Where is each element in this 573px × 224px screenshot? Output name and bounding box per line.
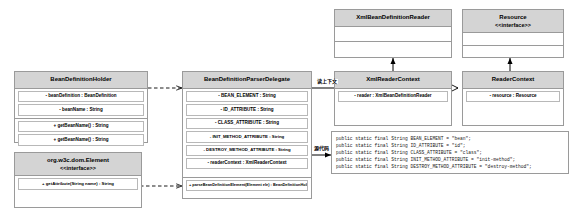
- class-name: ReaderContext: [492, 76, 535, 84]
- class-name: XmlReaderContext: [366, 76, 420, 84]
- edge-label-context: 读上下文: [316, 79, 338, 84]
- attributes-compartment: - resource : Resource: [463, 89, 563, 126]
- class-box-reader-context[interactable]: ReaderContext - resource : Resource: [462, 71, 564, 126]
- attribute-row: - readerContext : XmlReaderContext: [186, 158, 308, 170]
- attributes-compartment: - reader : XmlBeanDefinitionReader: [335, 89, 451, 126]
- class-title-parser-delegate: BeanDefinitionParserDelegate: [183, 72, 311, 89]
- class-title-resource: Resource <<interface>>: [463, 10, 563, 33]
- class-name: Resource: [499, 14, 526, 22]
- class-box-xml-reader-context[interactable]: XmlReaderContext - reader : XmlBeanDefin…: [334, 71, 452, 126]
- methods-compartment: [335, 41, 451, 57]
- class-name: org.w3c.dom.Element: [47, 157, 109, 165]
- class-title-w3c-element: org.w3c.dom.Element <<interface>>: [15, 153, 141, 176]
- methods-compartment: + getBeanName() : String + getBeanName()…: [15, 118, 147, 148]
- class-name: BeanDefinitionParserDelegate: [204, 76, 290, 84]
- class-box-bean-definition-parser-delegate[interactable]: BeanDefinitionParserDelegate - BEAN_ELEM…: [182, 71, 312, 199]
- attribute-row: - DESTROY_METHOD_ATTRIBUTE : String: [186, 145, 308, 156]
- class-box-w3c-element[interactable]: org.w3c.dom.Element <<interface>> + getA…: [14, 152, 142, 208]
- attribute-row: - INIT_METHOD_ATTRIBUTE : String: [186, 131, 308, 142]
- class-name: BeanDefinitionHolder: [50, 76, 111, 84]
- attribute-row: - beanDefinition : BeanDefinition: [18, 91, 144, 103]
- attribute-row: - BEAN_ELEMENT : String: [186, 91, 308, 103]
- code-snippet-block: public static final String BEAN_ELEMENT …: [331, 131, 569, 174]
- edge-label-source: 源代码: [313, 146, 330, 151]
- methods-compartment: [463, 45, 563, 57]
- method-row: + parseBeanDefinitionElement(Element ele…: [186, 180, 308, 191]
- method-row: + getBeanName() : String: [18, 121, 144, 133]
- class-box-xml-bean-definition-reader[interactable]: XmlBeanDefinitionReader: [334, 9, 452, 58]
- class-title-xml-bean-definition-reader: XmlBeanDefinitionReader: [335, 10, 451, 27]
- class-title-reader-context: ReaderContext: [463, 72, 563, 89]
- class-stereotype: <<interface>>: [60, 165, 96, 172]
- class-title-bean-definition-holder: BeanDefinitionHolder: [15, 72, 147, 89]
- class-box-resource[interactable]: Resource <<interface>>: [462, 9, 564, 58]
- class-name: XmlBeanDefinitionReader: [356, 14, 430, 22]
- attribute-row: - reader : XmlBeanDefinitionReader: [338, 91, 448, 103]
- attributes-compartment: [463, 33, 563, 44]
- attributes-compartment: - BEAN_ELEMENT : String - ID_ATTRIBUTE :…: [183, 89, 311, 177]
- class-title-xml-reader-context: XmlReaderContext: [335, 72, 451, 89]
- attributes-compartment: [335, 27, 451, 42]
- method-row: + getBeanName() : String: [18, 134, 144, 146]
- class-stereotype: <<interface>>: [495, 22, 531, 29]
- methods-compartment: + getAttribute(String name) : String: [15, 176, 141, 207]
- attribute-row: - ID_ATTRIBUTE : String: [186, 104, 308, 116]
- attribute-row: - resource : Resource: [466, 91, 560, 103]
- attributes-compartment: - beanDefinition : BeanDefinition - bean…: [15, 89, 147, 118]
- attribute-row: - CLASS_ATTRIBUTE : String: [186, 118, 308, 130]
- attribute-row: - beanName : String: [18, 104, 144, 116]
- class-box-bean-definition-holder[interactable]: BeanDefinitionHolder - beanDefinition : …: [14, 71, 148, 143]
- method-row: + getAttribute(String name) : String: [18, 178, 138, 189]
- methods-compartment: + parseBeanDefinitionElement(Element ele…: [183, 177, 311, 198]
